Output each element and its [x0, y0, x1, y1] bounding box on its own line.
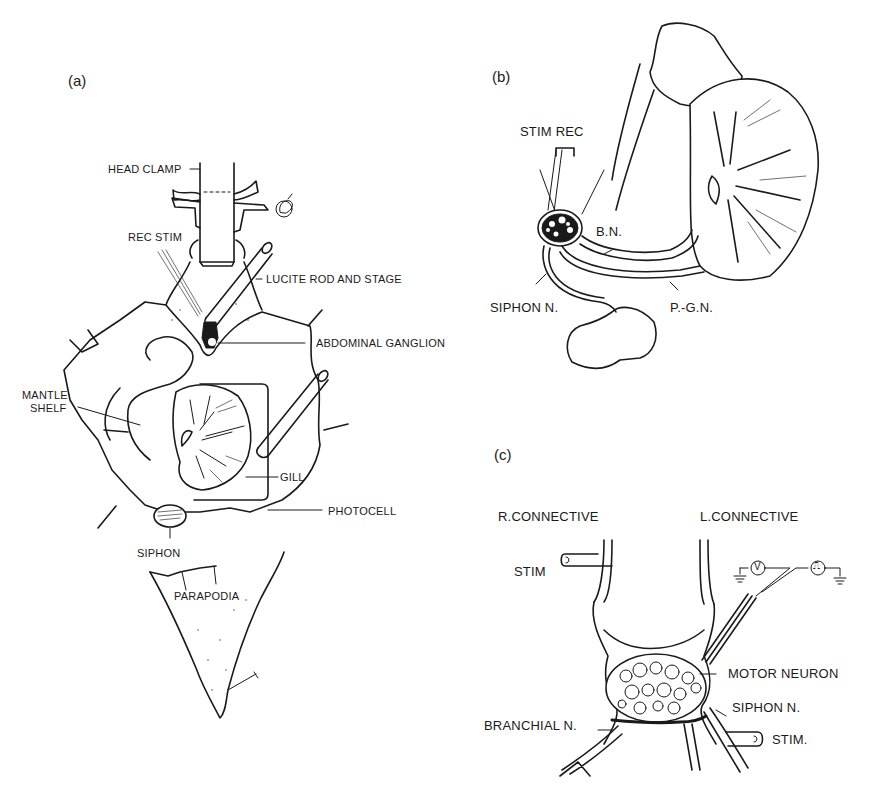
label-pericardial-genital-nerve: P.-G.N. — [670, 300, 713, 315]
pulse-generator-symbol: ⎍ — [813, 560, 820, 572]
light-bulb-icon — [276, 194, 293, 217]
label-motor-neuron: MOTOR NEURON — [728, 666, 839, 681]
voltmeter-symbol: V — [754, 561, 761, 572]
label-mantle-shelf-line2: SHELF — [30, 402, 66, 414]
label-lucite-rod-and-stage: LUCITE ROD AND STAGE — [266, 273, 402, 285]
label-stim-bottom: STIM. — [772, 732, 808, 747]
abdominal-ganglion — [202, 322, 218, 348]
label-head-clamp: HEAD CLAMP — [108, 163, 182, 175]
label-parapodia: PARAPODIA — [174, 590, 239, 602]
label-rec-stim: REC STIM — [128, 231, 182, 243]
gill-b — [690, 79, 818, 280]
label-r-connective: R.CONNECTIVE — [498, 509, 599, 524]
label-stim-rec: STIM REC — [520, 124, 584, 139]
siphon — [154, 505, 186, 527]
label-siphon: SIPHON — [137, 547, 180, 559]
recording-circuit — [734, 561, 846, 596]
panel-b-drawing — [536, 23, 818, 368]
label-gill: GILL — [280, 471, 305, 483]
label-mantle-shelf-line1: MANTLE — [22, 389, 68, 401]
panel-b-letter: (b) — [492, 68, 510, 85]
label-branchial-nerve-bn: B.N. — [596, 224, 622, 239]
panel-a-letter: (a) — [68, 72, 86, 89]
abdominal-ganglion-b — [538, 210, 582, 246]
motor-neuron-cluster — [606, 654, 706, 723]
label-stim-top: STIM — [514, 564, 546, 579]
panel-c-letter: (c) — [494, 446, 512, 463]
label-branchial-nerve-c: BRANCHIAL N. — [484, 718, 577, 733]
label-abdominal-ganglion: ABDOMINAL GANGLION — [316, 337, 445, 349]
head-clamp — [172, 163, 268, 266]
label-l-connective: L.CONNECTIVE — [700, 509, 798, 524]
gill — [173, 385, 251, 490]
lucite-rod — [205, 241, 274, 328]
label-siphon-nerve-b: SIPHON N. — [490, 300, 558, 315]
label-siphon-nerve-c: SIPHON N. — [732, 700, 800, 715]
label-photocell: PHOTOCELL — [328, 505, 396, 517]
panel-a-drawing — [64, 163, 348, 718]
